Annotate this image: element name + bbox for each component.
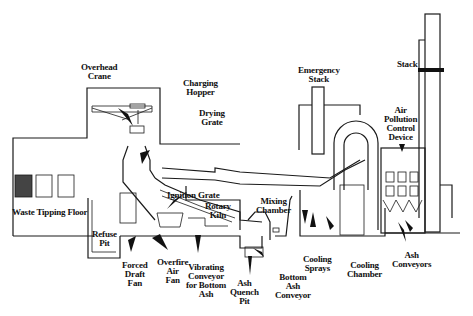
label-ash-conveyors: Ash Conveyors (392, 251, 431, 269)
label-ash-quench-pit: Ash Quench Pit (230, 279, 259, 306)
overhead-crane (92, 104, 152, 133)
main-stack (418, 14, 452, 232)
label-waste-tipping-floor: Waste Tipping Floor (12, 208, 87, 217)
label-emergency-stack: Emergency Stack (298, 66, 340, 84)
label-drying-grate: Drying Grate (199, 109, 225, 127)
label-vibrating-conveyor: Vibrating Conveyor for Bottom Ash (186, 263, 226, 299)
air-pollution-control (381, 148, 460, 233)
label-bottom-ash-conveyor: Bottom Ash Conveyor (275, 273, 311, 300)
label-rotary-kiln: Rotary Kiln (205, 202, 231, 220)
label-charging-hopper: Charging Hopper (183, 79, 218, 97)
label-ignition-grate: Ignition Grate (167, 191, 219, 200)
label-refuse-pit: Refuse Pit (92, 230, 117, 248)
label-mixing-chamber: Mixing Chamber (256, 197, 291, 215)
label-forced-draft-fan: Forced Draft Fan (122, 261, 148, 288)
label-overhead-crane: Overhead Crane (81, 63, 117, 81)
label-overfire-air-fan: Overfire Air Fan (157, 258, 188, 285)
emergency-stack-cooling (299, 87, 385, 236)
label-stack: Stack (397, 60, 418, 69)
label-air-pollution-control-device: Air Pollution Control Device (384, 106, 417, 142)
label-cooling-sprays: Cooling Sprays (303, 255, 332, 273)
label-cooling-chamber: Cooling Chamber (347, 261, 382, 279)
furnace (120, 146, 365, 248)
